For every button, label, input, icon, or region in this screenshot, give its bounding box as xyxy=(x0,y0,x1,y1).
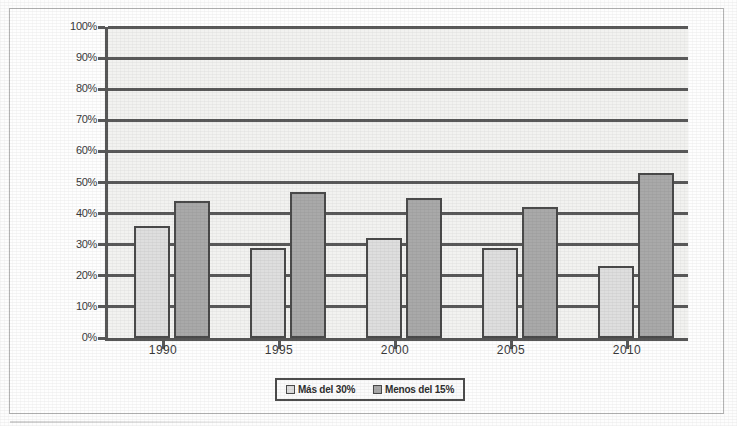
y-axis-tick-mark xyxy=(98,274,105,277)
y-axis-tick-label: 0% xyxy=(53,331,97,343)
x-axis-tick-label: 2010 xyxy=(582,343,672,357)
bar xyxy=(134,226,170,338)
legend-item-1: Menos del 15% xyxy=(373,384,454,395)
plot-area xyxy=(105,27,688,341)
y-axis-tick-label: 20% xyxy=(53,269,97,281)
y-axis-tick-label: 90% xyxy=(53,51,97,63)
bar-group xyxy=(598,27,674,338)
y-axis-tick-mark xyxy=(98,181,105,184)
bar xyxy=(598,266,634,338)
y-axis-tick-mark xyxy=(98,305,105,308)
legend-swatch-menos-del-15 xyxy=(373,385,382,394)
legend-label-0: Más del 30% xyxy=(298,384,355,395)
y-axis-tick-label: 10% xyxy=(53,300,97,312)
y-axis-tick-mark xyxy=(98,337,105,340)
bar xyxy=(638,173,674,338)
x-axis-tick-label: 1990 xyxy=(118,343,208,357)
y-axis-tick-mark xyxy=(98,150,105,153)
bar xyxy=(290,192,326,338)
chart-legend: Más del 30% Menos del 15% xyxy=(275,378,465,401)
y-axis-tick-label: 80% xyxy=(53,82,97,94)
x-axis-tick-label: 2000 xyxy=(350,343,440,357)
y-axis-tick-mark xyxy=(98,212,105,215)
legend-label-1: Menos del 15% xyxy=(385,384,454,395)
y-axis-tick-label: 100% xyxy=(53,20,97,32)
bar xyxy=(522,207,558,338)
bar-group xyxy=(482,27,558,338)
bar-group xyxy=(250,27,326,338)
bar-group xyxy=(134,27,210,338)
x-axis-tick-label: 2005 xyxy=(466,343,556,357)
bar-group xyxy=(366,27,442,338)
y-axis-tick-label: 50% xyxy=(53,176,97,188)
y-axis-tick-label: 70% xyxy=(53,113,97,125)
bar xyxy=(406,198,442,338)
y-axis-tick-mark xyxy=(98,119,105,122)
bar xyxy=(366,238,402,338)
legend-item-0: Más del 30% xyxy=(286,384,355,395)
y-axis-tick-mark xyxy=(98,26,105,29)
y-axis-tick-label: 30% xyxy=(53,238,97,250)
y-axis-tick-mark xyxy=(98,243,105,246)
scanned-page: 0%10%20%30%40%50%60%70%80%90%100% 199019… xyxy=(0,0,737,426)
bar xyxy=(250,248,286,338)
y-axis-tick-label: 60% xyxy=(53,144,97,156)
y-axis-tick-label: 40% xyxy=(53,207,97,219)
bar-chart: 0%10%20%30%40%50%60%70%80%90%100% 199019… xyxy=(0,0,737,426)
y-axis-tick-mark xyxy=(98,88,105,91)
bar xyxy=(174,201,210,338)
x-axis-tick-label: 1995 xyxy=(234,343,324,357)
y-axis-tick-mark xyxy=(98,57,105,60)
legend-swatch-mas-del-30 xyxy=(286,385,295,394)
bar xyxy=(482,248,518,338)
